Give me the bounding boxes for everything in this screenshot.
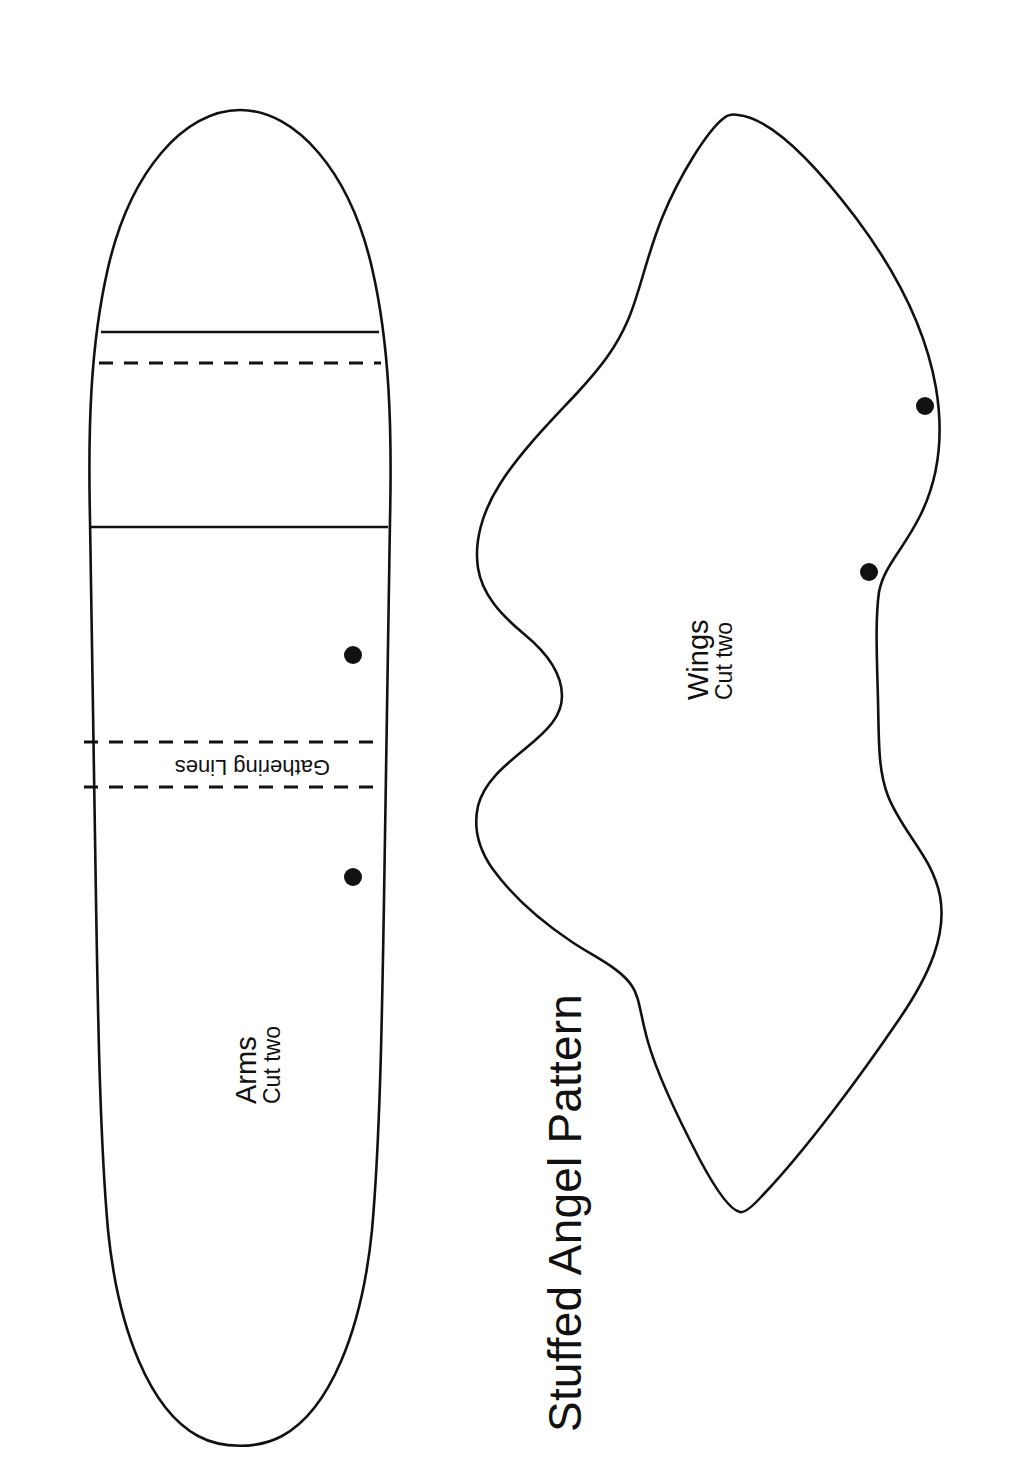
pattern-drawing [0,0,1030,1483]
wings-piece-name: Wings [684,619,713,700]
gathering-lines-label: Gathering Lines [175,756,330,778]
page-title: Stuffed Angel Pattern [542,994,588,1432]
pattern-sheet: Stuffed Angel Pattern Arms Cut two Wings… [0,0,1030,1483]
arms-piece-name: Arms [232,1026,261,1104]
arms-marker-dot-lower [344,868,362,886]
wings-label-group: Wings Cut two [684,619,736,700]
wings-marker-dot-upper [916,397,934,415]
arms-label-group: Arms Cut two [232,1026,284,1104]
wings-marker-dot-lower [860,563,878,581]
wings-cut-note: Cut two [713,619,736,700]
arms-marker-dot-upper [344,646,362,664]
arms-cut-note: Cut two [261,1026,284,1104]
